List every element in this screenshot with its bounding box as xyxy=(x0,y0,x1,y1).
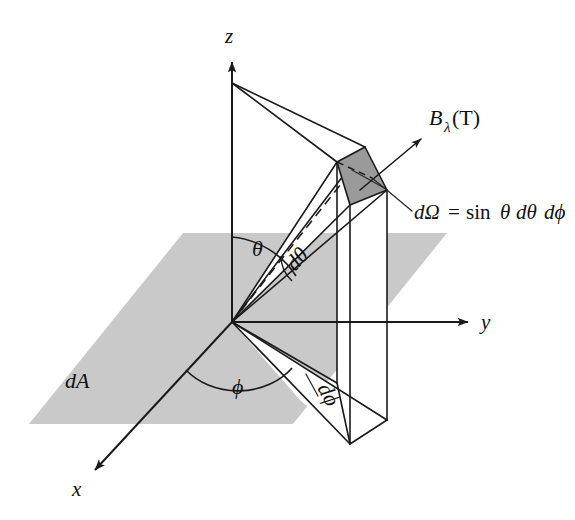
area-element-label: dA xyxy=(65,368,90,393)
domega-sin: sin xyxy=(466,200,491,224)
domega-dtheta: dθ xyxy=(516,200,537,224)
theta-label: θ xyxy=(252,236,263,261)
intensity-argument-label: (T) xyxy=(452,105,480,130)
axis-y-label: y xyxy=(479,310,491,334)
domega-lhs: dΩ xyxy=(414,200,440,224)
phi-label: ϕ xyxy=(232,374,243,399)
solid-angle-equation: dΩ = sin θ dθ dϕ xyxy=(414,200,566,224)
figure-container: z y x dA θ dθ ϕ dϕ B λ (T) dΩ = sin θ dθ… xyxy=(0,0,575,520)
intensity-label-group: B λ (T) xyxy=(429,105,480,135)
axis-x-label: x xyxy=(71,477,82,501)
domega-dphi: dϕ xyxy=(544,200,566,224)
domega-equals: = xyxy=(448,200,460,224)
intensity-lambda-subscript: λ xyxy=(443,119,451,135)
axis-z-label: z xyxy=(224,24,233,48)
intensity-b-label: B xyxy=(429,105,442,130)
solid-angle-diagram: z y x dA θ dθ ϕ dϕ B λ (T) dΩ = sin θ dθ… xyxy=(0,0,575,520)
domega-theta: θ xyxy=(500,200,510,224)
